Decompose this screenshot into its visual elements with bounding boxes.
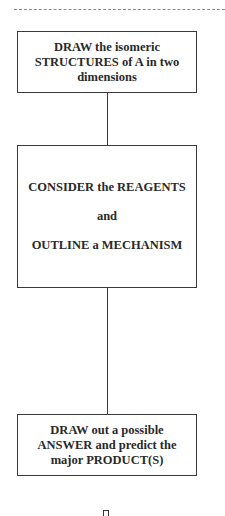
- step-box-draw-answer: DRAW out a possible ANSWER and predict t…: [17, 414, 197, 476]
- step-3-line-3: major PRODUCT(S): [51, 453, 164, 468]
- step-box-consider-reagents: CONSIDER the REAGENTS and OUTLINE a MECH…: [17, 145, 197, 288]
- step-2-line-1: CONSIDER the REAGENTS: [28, 180, 186, 195]
- connector-line-1: [107, 93, 109, 145]
- step-2-line-3: OUTLINE a MECHANISM: [32, 238, 183, 253]
- step-1-line-2: STRUCTURES of A in two: [35, 55, 179, 70]
- step-2-line-2: and: [97, 209, 117, 224]
- step-box-draw-structures: DRAW the isomeric STRUCTURES of A in two…: [17, 31, 197, 93]
- step-3-line-2: ANSWER and predict the: [37, 438, 176, 453]
- step-1-line-1: DRAW the isomeric: [54, 40, 160, 55]
- step-3-line-1: DRAW out a possible: [50, 423, 163, 438]
- dashed-separator: [14, 9, 225, 10]
- connector-line-2: [107, 288, 109, 414]
- cropped-glyph-icon: [103, 510, 109, 516]
- step-1-line-3: dimensions: [77, 70, 137, 85]
